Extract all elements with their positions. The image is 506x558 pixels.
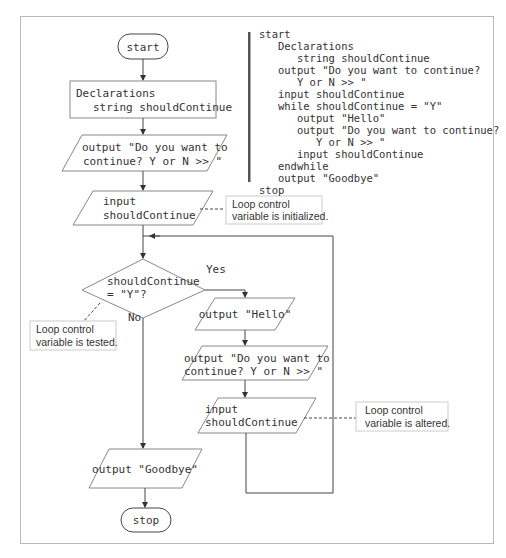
loop-decision-diamond: shouldContinue = "Y"? [82, 259, 205, 318]
svg-text:output "Do you want to continu: output "Do you want to continue? [259, 64, 480, 76]
stop-terminator: stop [121, 508, 171, 532]
input-parallelogram: input shouldContinue [73, 191, 213, 225]
svg-text:Y or N >> ": Y or N >> " [259, 136, 385, 148]
svg-text:start: start [126, 41, 159, 54]
svg-text:output "Do you want to continu: output "Do you want to continue? [259, 124, 499, 136]
callout-initialized: Loop control variable is initialized. [226, 196, 328, 224]
svg-text:shouldContinue: shouldContinue [103, 209, 196, 222]
svg-text:= "Y"?: = "Y"? [107, 288, 147, 301]
svg-text:stop: stop [133, 514, 160, 527]
svg-text:input: input [103, 195, 136, 208]
svg-text:Loop control: Loop control [232, 198, 290, 210]
svg-text:string shouldContinue: string shouldContinue [259, 52, 430, 64]
pseudocode-bracket [248, 32, 251, 182]
pseudocode-block: start Declarations string shouldContinue… [259, 28, 499, 196]
svg-text:variable is tested.: variable is tested. [36, 336, 118, 348]
svg-text:continue? Y or N >> ": continue? Y or N >> " [83, 155, 222, 168]
svg-text:input shouldContinue: input shouldContinue [259, 148, 423, 160]
svg-text:variable is altered.: variable is altered. [365, 417, 450, 429]
start-terminator: start [118, 34, 168, 59]
callout-tested: Loop control variable is tested. [30, 321, 118, 350]
svg-text:output "Do you want to: output "Do you want to [82, 141, 228, 154]
svg-text:output "Hello": output "Hello" [259, 112, 385, 124]
svg-text:variable is initialized.: variable is initialized. [232, 210, 328, 222]
no-label: No [128, 311, 141, 324]
svg-text:continue? Y or N >> ": continue? Y or N >> " [184, 365, 323, 378]
svg-text:output "Do you want to: output "Do you want to [184, 352, 330, 365]
output-prompt2-parallelogram: output "Do you want to continue? Y or N … [182, 346, 330, 380]
svg-text:Loop control: Loop control [36, 323, 94, 335]
declarations-box: Declarations string shouldContinue [70, 81, 232, 118]
svg-text:output "Goodbye": output "Goodbye" [259, 172, 379, 184]
svg-text:start: start [259, 28, 291, 40]
svg-text:Y or N >> ": Y or N >> " [259, 76, 366, 88]
svg-text:shouldContinue: shouldContinue [107, 275, 200, 288]
flowchart-diagram: start Declarations string shouldContinue… [0, 0, 506, 558]
yes-branch-arrow [205, 290, 245, 297]
svg-text:Loop control: Loop control [365, 404, 423, 416]
output-hello-parallelogram: output "Hello" [195, 298, 295, 330]
svg-text:output "Hello": output "Hello" [199, 308, 292, 321]
input2-parallelogram: input shouldContinue [198, 398, 316, 433]
svg-text:output "Goodbye": output "Goodbye" [92, 463, 198, 476]
svg-text:input: input [205, 403, 238, 416]
callout-connector [83, 303, 100, 322]
svg-text:stop: stop [259, 184, 284, 196]
svg-text:while shouldContinue = "Y": while shouldContinue = "Y" [259, 100, 442, 112]
svg-text:string shouldContinue: string shouldContinue [93, 101, 232, 114]
svg-text:input shouldContinue: input shouldContinue [259, 88, 404, 100]
output-goodbye-parallelogram: output "Goodbye" [89, 449, 202, 488]
svg-text:Declarations: Declarations [76, 87, 155, 100]
yes-label: Yes [206, 263, 226, 276]
svg-text:Declarations: Declarations [259, 40, 354, 52]
output-prompt-parallelogram: output "Do you want to continue? Y or N … [62, 135, 228, 171]
svg-text:shouldContinue: shouldContinue [205, 416, 298, 429]
svg-text:endwhile: endwhile [259, 160, 329, 172]
callout-altered: Loop control variable is altered. [356, 402, 450, 431]
